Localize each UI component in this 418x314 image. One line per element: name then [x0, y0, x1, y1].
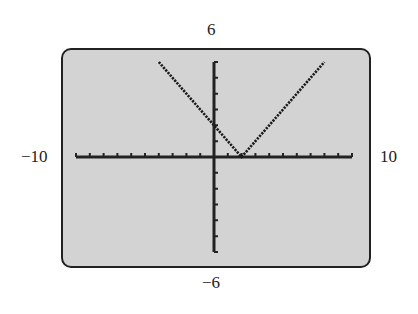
- y-max-label: 6: [207, 21, 216, 38]
- x-max-label: 10: [380, 148, 397, 165]
- y-min-label: −6: [202, 274, 220, 291]
- x-min-label: −10: [21, 148, 48, 165]
- function-curve: [159, 62, 325, 157]
- graph-plot: [61, 48, 371, 268]
- calculator-screen: [61, 48, 371, 268]
